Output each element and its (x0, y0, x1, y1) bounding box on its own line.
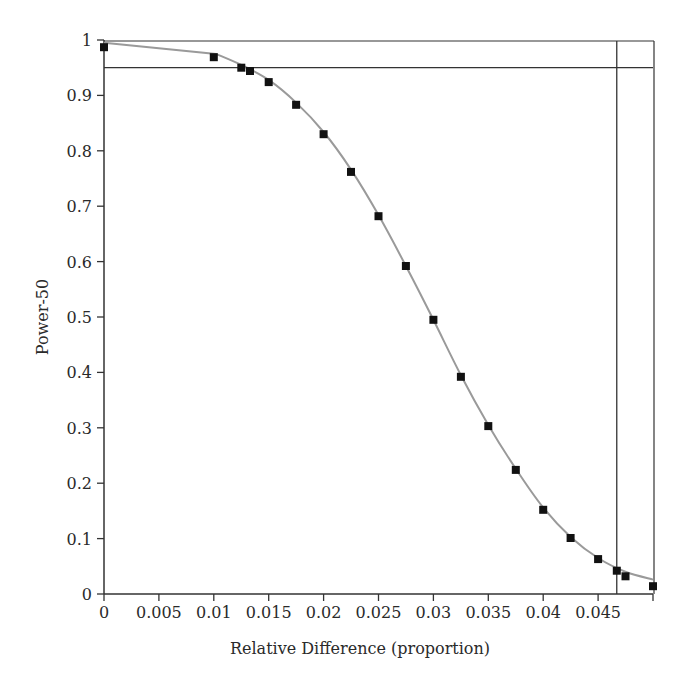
y-axis: 00.10.20.30.40.50.60.70.80.91 (67, 31, 104, 604)
data-point-square-marker (649, 582, 657, 590)
data-point-square-marker (484, 422, 492, 430)
data-point-square-marker (402, 262, 410, 270)
data-point-square-marker (622, 572, 630, 580)
x-tick-label: 0.035 (465, 603, 511, 622)
data-point-square-marker (594, 555, 602, 563)
data-point-square-marker (210, 53, 218, 61)
x-tick-label: 0.03 (416, 603, 452, 622)
y-tick-label: 0.5 (67, 308, 92, 327)
data-point-square-marker (246, 67, 254, 75)
y-tick-label: 0.9 (67, 86, 92, 105)
fitted-curve-line (104, 43, 653, 580)
data-point-square-marker (613, 567, 621, 575)
y-tick-label: 1 (82, 31, 92, 50)
x-tick-label: 0.005 (136, 603, 182, 622)
x-tick-label: 0.015 (246, 603, 292, 622)
data-point-square-marker (320, 130, 328, 138)
plot-frame (104, 40, 654, 594)
data-point-square-marker (292, 101, 300, 109)
data-point-square-marker (429, 316, 437, 324)
data-point-markers (100, 43, 657, 590)
x-tick-label: 0.01 (196, 603, 232, 622)
y-tick-label: 0.6 (67, 253, 92, 272)
data-point-square-marker (567, 534, 575, 542)
data-point-square-marker (347, 168, 355, 176)
x-tick-label: 0.04 (525, 603, 561, 622)
data-point-square-marker (237, 64, 245, 72)
x-axis-title: Relative Difference (proportion) (230, 639, 490, 658)
y-tick-label: 0.8 (67, 142, 92, 161)
x-axis: 00.0050.010.0150.020.0250.030.0350.040.0… (99, 594, 653, 622)
reference-lines (104, 41, 653, 594)
y-tick-label: 0.4 (67, 363, 92, 382)
data-point-square-marker (512, 466, 520, 474)
power-curve-chart: 00.10.20.30.40.50.60.70.80.91 00.0050.01… (0, 0, 695, 693)
data-point-square-marker (457, 373, 465, 381)
data-point-square-marker (265, 78, 273, 86)
y-tick-label: 0.3 (67, 419, 92, 438)
data-point-square-marker (375, 212, 383, 220)
x-tick-label: 0.025 (356, 603, 402, 622)
x-tick-label: 0.02 (306, 603, 342, 622)
y-tick-label: 0.7 (67, 197, 92, 216)
data-point-square-marker (539, 506, 547, 514)
data-point-square-marker (100, 43, 108, 51)
x-tick-label: 0.045 (575, 603, 621, 622)
y-axis-title: Power-50 (33, 279, 52, 355)
x-tick-label: 0 (99, 603, 109, 622)
y-tick-label: 0.2 (67, 474, 92, 493)
y-tick-label: 0.1 (67, 530, 92, 549)
y-tick-label: 0 (82, 585, 92, 604)
